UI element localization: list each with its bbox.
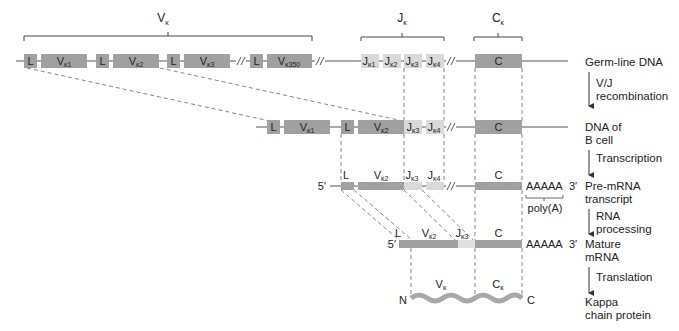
process-flow: Germ-line DNA V/J recombination DNA of B… xyxy=(585,56,668,321)
j-region-header: Jκ xyxy=(361,11,444,41)
svg-text:5′: 5′ xyxy=(388,238,396,250)
polyA-bracket xyxy=(526,195,563,201)
mature-mrna-row: 5′ L Vκ2 Jκ3 C AAAAA 3′ xyxy=(388,227,577,250)
svg-text:DNA of: DNA of xyxy=(585,121,622,133)
svg-text:Vκ2: Vκ2 xyxy=(422,227,437,240)
recombination-guides xyxy=(27,68,522,121)
v-region-header: Vκ xyxy=(24,11,312,41)
svg-text:C: C xyxy=(495,169,503,181)
kappa-chain-diagram: Vκ Jκ Cκ L Vκ1 L Vκ2 L Vκ3 L Vκ350 xyxy=(0,0,679,331)
svg-text:recombination: recombination xyxy=(596,90,668,102)
svg-text:Jκ3: Jκ3 xyxy=(456,227,469,240)
svg-text:3′: 3′ xyxy=(569,238,577,250)
svg-text:L: L xyxy=(253,55,259,67)
svg-text:C: C xyxy=(495,227,503,239)
svg-text:Jκ3: Jκ3 xyxy=(406,169,419,182)
svg-text:3′: 3′ xyxy=(569,180,577,192)
svg-text:processing: processing xyxy=(596,223,652,235)
svg-text:L: L xyxy=(27,55,33,67)
svg-text:C: C xyxy=(495,55,503,67)
bcell-dna-row: L Vκ1 L Vκ2 Jκ3 Jκ4 C xyxy=(256,120,568,134)
svg-text:RNA: RNA xyxy=(596,210,621,222)
svg-text:mRNA: mRNA xyxy=(585,251,619,263)
c-region-header: Cκ xyxy=(474,11,522,41)
svg-text:Cκ: Cκ xyxy=(492,11,505,26)
protein-chain xyxy=(411,295,522,301)
svg-text:V/J: V/J xyxy=(596,77,613,89)
svg-text:Transcription: Transcription xyxy=(596,152,662,164)
svg-text:L: L xyxy=(99,55,105,67)
svg-text:Mature: Mature xyxy=(585,238,621,250)
svg-text:Germ-line DNA: Germ-line DNA xyxy=(585,56,663,68)
svg-text:AAAAA: AAAAA xyxy=(526,180,563,192)
svg-text:chain protein: chain protein xyxy=(585,309,651,321)
germline-dna-row: L Vκ1 L Vκ2 L Vκ3 L Vκ350 Jκ1 Jκ2 Jκ3 Jκ… xyxy=(16,54,568,68)
svg-text:C: C xyxy=(495,121,503,133)
svg-text:L: L xyxy=(170,55,176,67)
svg-text:Jκ4: Jκ4 xyxy=(428,169,441,182)
svg-text:L: L xyxy=(343,169,349,181)
svg-text:Cκ: Cκ xyxy=(492,278,504,291)
polyA-label: poly(A) xyxy=(528,202,563,214)
svg-text:Vκ: Vκ xyxy=(436,278,447,291)
premrna-row: 5′ L Vκ2 Jκ3 Jκ4 C AAAAA 3′ poly(A) xyxy=(318,169,577,214)
kappa-protein-row: N Vκ Cκ C xyxy=(399,278,535,306)
svg-text:transcript: transcript xyxy=(585,193,633,205)
svg-text:L: L xyxy=(395,227,401,239)
svg-text:5′: 5′ xyxy=(318,180,326,192)
svg-text:Kappa: Kappa xyxy=(585,296,619,308)
svg-text:N: N xyxy=(399,294,407,306)
svg-text:Translation: Translation xyxy=(596,271,652,283)
svg-text:Jκ: Jκ xyxy=(397,11,407,26)
svg-text:C: C xyxy=(527,294,535,306)
svg-text:B cell: B cell xyxy=(585,134,613,146)
svg-text:L: L xyxy=(270,121,276,133)
svg-text:L: L xyxy=(344,121,350,133)
svg-text:AAAAA: AAAAA xyxy=(526,238,563,250)
svg-text:Pre-mRNA: Pre-mRNA xyxy=(585,180,641,192)
svg-text:Vκ2: Vκ2 xyxy=(374,169,389,182)
svg-text:Vκ: Vκ xyxy=(157,11,169,26)
